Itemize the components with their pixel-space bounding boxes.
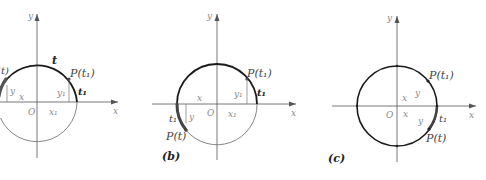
- highlight-arc-t: [0, 79, 6, 96]
- x-axis-label: x: [291, 108, 296, 118]
- unit-circle-upper-arc: [4, 65, 77, 102]
- y-axis-label: y: [27, 11, 34, 21]
- y-upper-label: y: [414, 88, 421, 98]
- point-p-t1-label: P(t₁): [246, 67, 272, 80]
- highlight-arc-t1: [177, 104, 186, 130]
- x-lower-label: x: [403, 109, 408, 119]
- point-p-t-label: P(t): [425, 132, 446, 145]
- circle-right-point: [436, 105, 438, 107]
- x-upper-label: x: [402, 93, 407, 103]
- arc-t1-label: t₁: [257, 87, 266, 98]
- point-p-t1-label: P(t₁): [69, 67, 95, 80]
- y1-label: y₁: [233, 89, 243, 99]
- origin-label: O: [207, 108, 215, 118]
- x-label: x: [197, 93, 202, 103]
- circle-top-point: [396, 65, 398, 67]
- x-axis-label: x: [113, 106, 118, 116]
- unit-circle-lower: [1, 102, 78, 142]
- y-axis-label: y: [206, 11, 213, 21]
- origin-label: O: [28, 107, 36, 117]
- highlight-arc-t1: [429, 106, 437, 129]
- arc-t-label: t: [52, 54, 57, 67]
- panel-b: y x O P(t₁) t₁ y₁ x₁ x y t₁ P(t) (b): [152, 11, 296, 163]
- unit-circle-lower: [186, 104, 257, 145]
- panel-c: y x O P(t₁) x y x y t₁ P(t) (c): [328, 13, 476, 165]
- panel-a: y x O t P(t₁) t₁ y₁ x₁ y x (t): [0, 11, 118, 158]
- x1-label: x₁: [228, 109, 237, 119]
- arc-t1-lower-label: t₁: [169, 113, 177, 124]
- point-p-t-label-partial: (t): [0, 65, 9, 76]
- y-label: y: [188, 112, 195, 122]
- x-axis-label: x: [469, 110, 474, 120]
- y-label: y: [9, 86, 16, 96]
- panel-caption-c: (c): [328, 152, 345, 165]
- y-lower-label: y: [417, 116, 424, 126]
- origin-label: O: [386, 110, 394, 120]
- y1-label: y₁: [56, 88, 66, 98]
- circle-left-point: [356, 105, 358, 107]
- x-label: x: [19, 92, 24, 102]
- circle-bottom-point: [396, 145, 398, 147]
- arc-t1-label: t₁: [439, 113, 447, 124]
- point-p-t1-label: P(t₁): [428, 69, 454, 82]
- point-p-t: [427, 127, 430, 130]
- unit-circle-figure: y x O t P(t₁) t₁ y₁ x₁ y x (t) y x O P(t…: [0, 0, 486, 180]
- point-p-t-label: P(t): [165, 130, 186, 143]
- x1-label: x₁: [49, 107, 58, 117]
- y-axis-label: y: [386, 13, 393, 23]
- arc-t1-label: t₁: [78, 86, 87, 97]
- panel-caption-b: (b): [162, 150, 180, 163]
